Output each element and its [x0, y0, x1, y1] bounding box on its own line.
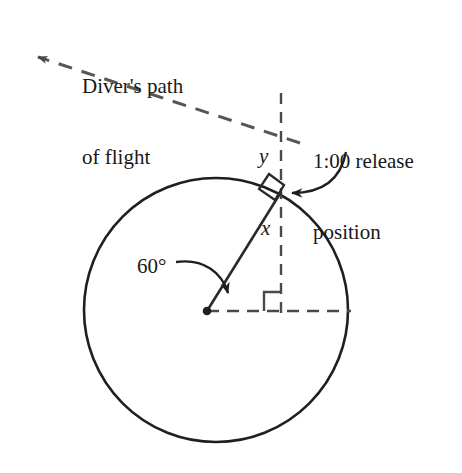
segment-y-label: y — [259, 145, 268, 169]
segment-x-label: x — [261, 217, 270, 241]
divers-path-line-1: Diver's path — [82, 75, 183, 99]
divers-path-of-flight-label: Diver's path of flight — [82, 28, 183, 216]
release-position-label: 1:00 release position — [313, 103, 414, 291]
release-position-line-2: position — [313, 221, 414, 245]
release-position-line-1: 1:00 release — [313, 150, 414, 174]
divers-path-line-2: of flight — [82, 146, 183, 170]
circle-center-dot — [203, 307, 212, 316]
angle-60-label: 60° — [137, 255, 166, 279]
diver-release-geometry-figure: Diver's path of flight 1:00 release posi… — [0, 0, 462, 473]
right-angle-marker-base — [264, 292, 281, 311]
